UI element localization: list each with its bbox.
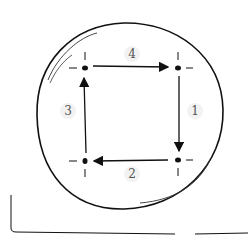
- nodes: [82, 66, 181, 165]
- node-bottom-right: [175, 158, 181, 163]
- floor-line: [11, 195, 248, 234]
- arrow-4: [93, 66, 168, 67]
- node-top-left: [82, 66, 88, 71]
- label-1: 1: [191, 104, 199, 118]
- arrows: [84, 66, 179, 161]
- label-3: 3: [64, 104, 72, 118]
- label-2: 2: [128, 167, 136, 181]
- node-bottom-left: [83, 158, 88, 164]
- label-4: 4: [128, 47, 136, 61]
- node-top-right: [175, 66, 181, 71]
- arrow-3: [84, 78, 86, 153]
- arrow-2: [94, 160, 168, 161]
- cycle-diagram: 4 1 2 3: [0, 0, 248, 247]
- node-ticks: [69, 52, 193, 177]
